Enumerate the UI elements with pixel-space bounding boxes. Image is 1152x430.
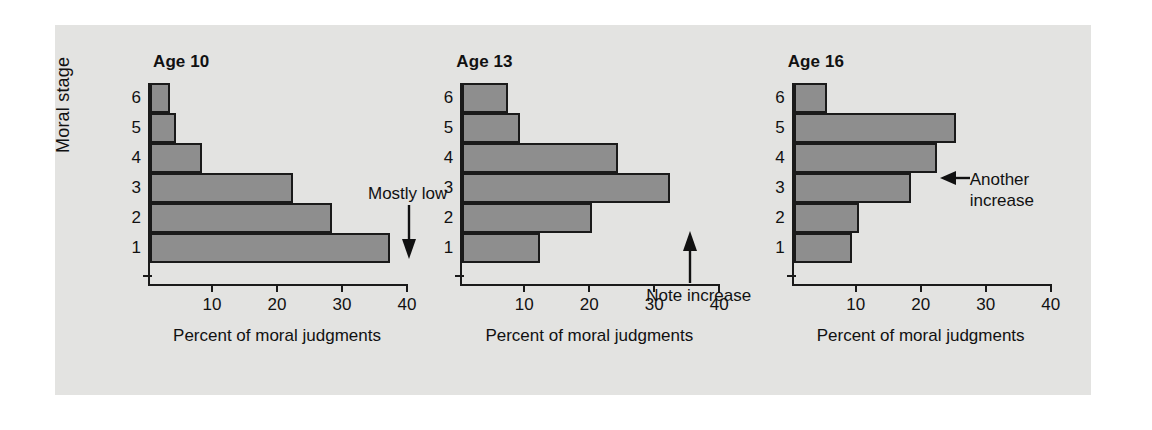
x-tick-label: 20 — [911, 295, 930, 315]
y-tick-label: 2 — [444, 208, 453, 228]
y-tick-label: 5 — [132, 118, 141, 138]
bar-stage-6 — [462, 83, 508, 113]
plot-area: 6 5 4 3 2 — [792, 83, 1056, 313]
bar-row: 1 — [150, 233, 408, 263]
bar-stage-2 — [462, 203, 592, 233]
y-tick-label: 4 — [444, 148, 453, 168]
bar-row: 2 — [150, 203, 408, 233]
bar-stage-1 — [462, 233, 540, 263]
x-axis-ticks: 10 20 30 40 — [148, 284, 408, 314]
x-tick-mark — [588, 284, 590, 292]
arrow-up-icon — [682, 231, 698, 283]
x-axis-label: Percent of moral judgments — [434, 326, 744, 346]
x-tick-label: 40 — [1041, 295, 1060, 315]
annotation-note-increase: Note increase — [646, 285, 751, 306]
bar-stage-2 — [794, 203, 859, 233]
x-tick-mark — [1050, 284, 1052, 292]
y-tick-label: 3 — [775, 178, 784, 198]
bar-row: 6 — [794, 83, 1052, 113]
y-tick-label: 6 — [444, 88, 453, 108]
x-tick-label: 20 — [580, 295, 599, 315]
x-axis-origin-tick — [787, 275, 796, 277]
y-tick-label: 3 — [444, 178, 453, 198]
y-tick-label: 4 — [132, 148, 141, 168]
bar-row: 6 — [150, 83, 408, 113]
bar-stage-5 — [794, 113, 956, 143]
x-tick-mark — [211, 284, 213, 292]
arrow-left-icon — [940, 169, 970, 187]
bar-stage-4 — [794, 143, 937, 173]
chart-panel-age-13: Age 13 6 5 4 — [400, 25, 745, 395]
x-axis-ticks: 10 20 30 40 — [792, 284, 1052, 314]
y-tick-label: 1 — [444, 238, 453, 258]
x-tick-mark — [920, 284, 922, 292]
bar-row: 1 — [794, 233, 1052, 263]
x-axis-origin-tick — [455, 275, 464, 277]
bar-stage-3 — [462, 173, 670, 203]
y-tick-label: 3 — [132, 178, 141, 198]
y-tick-label: 1 — [132, 238, 141, 258]
y-axis-label: Moral stage — [53, 57, 74, 153]
x-axis-label: Percent of moral judgments — [122, 326, 432, 346]
bar-row: 3 — [462, 173, 720, 203]
x-tick-mark — [855, 284, 857, 292]
annotation-another-increase: Another increase — [970, 169, 1080, 211]
x-tick-label: 20 — [268, 295, 287, 315]
bar-stage-3 — [794, 173, 911, 203]
plot-area: 6 5 4 3 2 — [148, 83, 412, 313]
bar-row: 5 — [794, 113, 1052, 143]
bars-group: 6 5 4 3 2 — [150, 83, 408, 263]
bar-row: 4 — [150, 143, 408, 173]
y-tick-label: 5 — [444, 118, 453, 138]
x-tick-mark — [523, 284, 525, 292]
y-tick-label: 2 — [775, 208, 784, 228]
bar-stage-1 — [150, 233, 390, 263]
bar-stage-6 — [794, 83, 827, 113]
y-tick-label: 4 — [775, 148, 784, 168]
x-tick-mark — [341, 284, 343, 292]
bar-stage-4 — [462, 143, 618, 173]
x-tick-mark — [985, 284, 987, 292]
chart-panel-age-16: Age 16 6 5 4 — [746, 25, 1091, 395]
bar-row: 2 — [462, 203, 720, 233]
x-tick-label: 30 — [976, 295, 995, 315]
bar-row: 5 — [150, 113, 408, 143]
bar-stage-1 — [794, 233, 852, 263]
chart-title: Age 13 — [456, 52, 512, 72]
x-tick-label: 10 — [203, 295, 222, 315]
chart-panels-row: Age 10 Moral stage 6 5 4 — [55, 25, 1091, 395]
x-tick-label: 10 — [846, 295, 865, 315]
y-tick-label: 6 — [775, 88, 784, 108]
bar-stage-3 — [150, 173, 293, 203]
bar-stage-6 — [150, 83, 170, 113]
y-tick-label: 2 — [132, 208, 141, 228]
y-tick-label: 1 — [775, 238, 784, 258]
chart-title: Age 10 — [153, 52, 209, 72]
figure-panel: Age 10 Moral stage 6 5 4 — [55, 25, 1091, 395]
y-tick-label: 6 — [132, 88, 141, 108]
x-axis-origin-tick — [143, 275, 152, 277]
bar-stage-2 — [150, 203, 332, 233]
plot-area: 6 5 4 3 2 — [460, 83, 724, 313]
x-tick-mark — [276, 284, 278, 292]
bar-row: 4 — [462, 143, 720, 173]
x-tick-label: 30 — [333, 295, 352, 315]
chart-panel-age-10: Age 10 Moral stage 6 5 4 — [55, 25, 400, 395]
x-tick-label: 10 — [515, 295, 534, 315]
bar-stage-5 — [150, 113, 176, 143]
bar-row: 5 — [462, 113, 720, 143]
x-axis-label: Percent of moral judgments — [766, 326, 1076, 346]
bar-row: 6 — [462, 83, 720, 113]
y-tick-label: 5 — [775, 118, 784, 138]
bar-stage-5 — [462, 113, 520, 143]
chart-title: Age 16 — [788, 52, 844, 72]
bar-stage-4 — [150, 143, 202, 173]
